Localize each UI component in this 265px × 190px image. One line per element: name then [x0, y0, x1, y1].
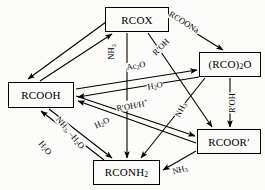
edge-rcooh-to-rcox [40, 34, 112, 81]
edge-rcox-to-rcooh [28, 22, 106, 79]
node-rcox-label: RCOX [121, 14, 152, 26]
edge-anhydride-to-rcooh [78, 77, 199, 97]
node-rcox[interactable]: RCOX [105, 7, 169, 32]
node-anhydride-label: (RCO)2O [208, 58, 251, 71]
edge-rcooh-to-anhydride [76, 70, 197, 89]
node-rconh2[interactable]: RCONH2 [93, 160, 160, 185]
node-rconh2-label: RCONH2 [105, 166, 148, 179]
node-rcoor[interactable]: RCOOR′ [197, 129, 261, 154]
node-rcooh[interactable]: RCOOH [8, 82, 74, 108]
edge-label-rpoh-right: R′OH [228, 93, 237, 114]
reaction-scheme-diagram: RCOX (RCO)2O RCOOH RCOOR′ RCONH2 RCOONa … [0, 0, 265, 190]
node-anhydride[interactable]: (RCO)2O [199, 52, 261, 77]
node-rcooh-label: RCOOH [21, 89, 61, 101]
node-rcoor-label: RCOOR′ [208, 136, 250, 148]
edge-label-nh3-top: NH3 [107, 44, 116, 60]
